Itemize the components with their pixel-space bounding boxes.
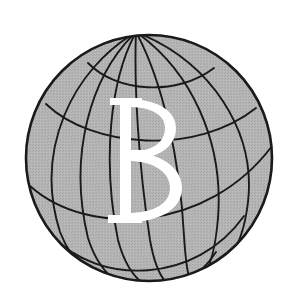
logo-stage: Globe B Emblem	[0, 0, 289, 307]
globe-emblem-graphic	[0, 0, 289, 307]
letter-b-waist	[126, 150, 146, 161]
